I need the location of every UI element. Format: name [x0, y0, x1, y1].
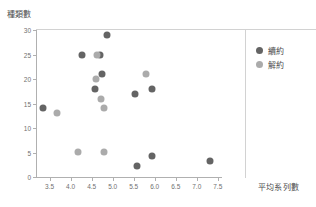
scatter-chart: 種類數 平均系列數 051015202530 3.54.04.55.05.56.… — [0, 0, 316, 207]
x-tick-label: 7.5 — [213, 183, 222, 190]
y-tick-label: 5 — [27, 149, 31, 156]
y-tick-label: 20 — [24, 76, 31, 83]
y-tick — [33, 153, 37, 154]
data-point[interactable] — [91, 85, 98, 92]
x-tick-label: 7.0 — [192, 183, 201, 190]
x-tick-label: 5.5 — [129, 183, 138, 190]
data-point[interactable] — [148, 85, 155, 92]
y-tick-label: 30 — [24, 27, 31, 34]
legend-item[interactable]: 解約 — [256, 58, 284, 70]
y-tick-label: 15 — [24, 100, 31, 107]
legend-item-label: 續約 — [268, 45, 284, 56]
data-point[interactable] — [94, 51, 101, 58]
x-tick-label: 5.0 — [108, 183, 117, 190]
legend-divider — [245, 30, 246, 178]
x-tick — [197, 177, 198, 181]
data-point[interactable] — [148, 153, 155, 160]
x-tick — [134, 177, 135, 181]
data-point[interactable] — [101, 105, 108, 112]
y-tick-label: 10 — [24, 125, 31, 132]
x-axis-title: 平均系列數 — [258, 181, 299, 192]
x-tick — [113, 177, 114, 181]
x-tick-label: 6.5 — [171, 183, 180, 190]
x-tick — [50, 177, 51, 181]
x-tick-label: 3.5 — [45, 183, 54, 190]
data-point[interactable] — [103, 31, 110, 38]
chart-legend: 續約解約 — [256, 44, 284, 72]
x-tick — [155, 177, 156, 181]
x-tick — [176, 177, 177, 181]
x-tick — [92, 177, 93, 181]
x-tick-label: 4.5 — [87, 183, 96, 190]
plot-area: 051015202530 3.54.04.55.05.56.06.57.07.5 — [36, 30, 222, 178]
y-tick-label: 25 — [24, 51, 31, 58]
data-point[interactable] — [98, 71, 105, 78]
data-point[interactable] — [101, 149, 108, 156]
y-tick — [33, 30, 37, 31]
x-tick — [218, 177, 219, 181]
data-point[interactable] — [131, 90, 138, 97]
y-tick — [33, 128, 37, 129]
y-tick-label: 0 — [27, 174, 31, 181]
data-point[interactable] — [79, 51, 86, 58]
y-tick — [33, 79, 37, 80]
x-tick — [71, 177, 72, 181]
legend-item[interactable]: 續約 — [256, 44, 284, 56]
legend-swatch-icon — [256, 61, 263, 68]
legend-item-label: 解約 — [268, 59, 284, 70]
data-point[interactable] — [134, 162, 141, 169]
data-point[interactable] — [207, 157, 214, 164]
data-point[interactable] — [40, 105, 47, 112]
data-point[interactable] — [75, 149, 82, 156]
x-tick-label: 6.0 — [150, 183, 159, 190]
legend-swatch-icon — [256, 47, 263, 54]
data-point[interactable] — [53, 110, 60, 117]
y-tick — [33, 55, 37, 56]
data-point[interactable] — [92, 76, 99, 83]
y-axis-title: 種類數 — [7, 8, 32, 19]
data-point[interactable] — [97, 95, 104, 102]
data-point[interactable] — [143, 71, 150, 78]
y-tick — [33, 104, 37, 105]
y-tick — [33, 177, 37, 178]
x-tick-label: 4.0 — [66, 183, 75, 190]
